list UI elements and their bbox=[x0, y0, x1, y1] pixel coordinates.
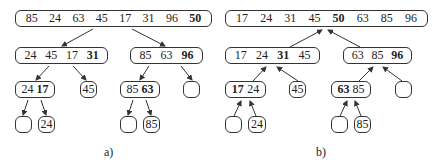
cell: 24 bbox=[41, 117, 53, 132]
cell: 24 bbox=[24, 48, 36, 63]
b-level2-empty-node bbox=[395, 81, 412, 98]
a-level2-node: 85 63 bbox=[120, 81, 160, 98]
figure-a-label: a) bbox=[104, 145, 113, 160]
cell: 63 bbox=[72, 11, 84, 26]
cell: 45 bbox=[96, 11, 108, 26]
a-level1-right: 85 63 96 bbox=[130, 47, 203, 64]
cell: 85 bbox=[127, 82, 139, 97]
b-root-array: 17 24 31 45 50 63 85 96 bbox=[225, 10, 428, 27]
cell: 31 bbox=[143, 11, 155, 26]
cell: 17 bbox=[235, 48, 247, 63]
a-level2-node: 45 bbox=[80, 81, 97, 98]
pivot-cell: 31 bbox=[277, 48, 289, 63]
pivot-cell: 31 bbox=[87, 48, 99, 63]
pivot-cell: 63 bbox=[338, 82, 350, 97]
b-level2-node: 63 85 bbox=[331, 81, 371, 98]
cell: 45 bbox=[45, 48, 57, 63]
cell: 45 bbox=[83, 82, 95, 97]
pivot-cell: 96 bbox=[391, 48, 403, 63]
a-level2-empty-node bbox=[183, 81, 200, 98]
pivot-cell: 17 bbox=[232, 82, 244, 97]
cell: 31 bbox=[284, 11, 296, 26]
cell: 85 bbox=[357, 117, 369, 132]
cell: 24 bbox=[49, 11, 61, 26]
cell: 24 bbox=[260, 11, 272, 26]
cell: 63 bbox=[357, 11, 369, 26]
cell: 85 bbox=[146, 117, 158, 132]
cell: 85 bbox=[371, 48, 383, 63]
a-level3-node: 85 bbox=[143, 116, 160, 133]
b-level3-node: 85 bbox=[354, 116, 371, 133]
pivot-cell: 63 bbox=[142, 82, 154, 97]
cell: 96 bbox=[166, 11, 178, 26]
pivot-cell: 17 bbox=[37, 82, 49, 97]
a-level2-node: 24 17 bbox=[15, 81, 55, 98]
cell: 85 bbox=[381, 11, 393, 26]
cell: 45 bbox=[292, 82, 304, 97]
cell: 63 bbox=[161, 48, 173, 63]
b-level3-node: 24 bbox=[248, 116, 266, 133]
cell: 24 bbox=[256, 48, 268, 63]
cell: 45 bbox=[308, 11, 320, 26]
cell: 96 bbox=[405, 11, 417, 26]
cell: 85 bbox=[353, 82, 365, 97]
figure-b-label: b) bbox=[316, 145, 326, 160]
cell: 24 bbox=[247, 82, 259, 97]
pivot-cell: 96 bbox=[182, 48, 194, 63]
cell: 45 bbox=[298, 48, 310, 63]
b-level2-node: 45 bbox=[289, 81, 306, 98]
b-level3-empty-node bbox=[331, 116, 348, 133]
cell: 17 bbox=[119, 11, 131, 26]
a-level3-empty-node bbox=[15, 116, 32, 133]
b-level3-empty-node bbox=[225, 116, 242, 133]
pivot-cell: 50 bbox=[333, 11, 345, 26]
cell: 63 bbox=[352, 48, 364, 63]
cell: 24 bbox=[251, 117, 263, 132]
a-level3-node: 24 bbox=[38, 116, 55, 133]
cell: 85 bbox=[26, 11, 38, 26]
a-level1-left: 24 45 17 31 bbox=[15, 47, 108, 64]
pivot-cell: 50 bbox=[189, 11, 201, 26]
cell: 17 bbox=[66, 48, 78, 63]
a-root-array: 85 24 63 45 17 31 96 50 bbox=[15, 10, 212, 27]
b-level1-right: 63 85 96 bbox=[343, 47, 412, 64]
b-level2-node: 17 24 bbox=[225, 81, 266, 98]
b-level1-left: 17 24 31 45 bbox=[225, 47, 320, 64]
cell: 85 bbox=[140, 48, 152, 63]
cell: 24 bbox=[22, 82, 34, 97]
a-level3-empty-node bbox=[120, 116, 137, 133]
cell: 17 bbox=[236, 11, 248, 26]
